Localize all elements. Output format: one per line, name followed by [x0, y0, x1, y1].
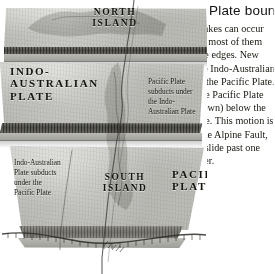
plate-label-indo-australian: INDO- AUSTRALIAN PLATE [10, 65, 140, 102]
block-diagram: NORTH ISLAND INDO- AUSTRALIAN PLATE Paci… [0, 0, 208, 274]
figure-canvas: NORTH ISLAND INDO- AUSTRALIAN PLATE Paci… [0, 0, 275, 274]
plate-label-pacific: PACIFIC PLATE [172, 168, 208, 193]
slab-side-bottom [18, 238, 186, 248]
sidebar-heading: Plate boundaries [209, 3, 275, 18]
caption-indo-australian-subducts: Indo-Australian Plate subducts under the… [14, 158, 80, 198]
island-label-north-island: NORTH ISLAND [78, 7, 152, 28]
crop-edge-fade [272, 0, 275, 274]
island-label-south-island: SOUTH ISLAND [92, 172, 158, 193]
sidebar-text-column: Plate boundaries Although earthquakes ca… [207, 0, 275, 274]
crust-band-bottom [6, 226, 196, 240]
sidebar-body-text: Although earthquakes can occur almost an… [207, 22, 275, 167]
caption-pacific-subducts: Pacific Plate subducts under the Indo- A… [148, 77, 208, 117]
